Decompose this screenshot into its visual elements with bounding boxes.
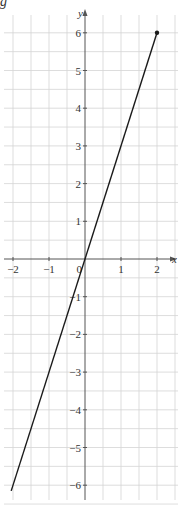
y-tick-label: 3 xyxy=(76,140,82,152)
y-tick-label: −5 xyxy=(69,442,81,454)
y-tick-label: −3 xyxy=(69,366,81,378)
y-axis-label: y xyxy=(77,7,83,19)
x-tick-label: 1 xyxy=(118,263,124,275)
x-tick-label: −1 xyxy=(43,263,55,275)
series-line xyxy=(11,33,157,491)
y-tick-label: −2 xyxy=(69,328,81,340)
y-axis-arrow-icon xyxy=(83,9,88,16)
y-tick-label: 5 xyxy=(76,65,82,77)
y-tick-label: −4 xyxy=(69,404,81,416)
x-axis-label: x xyxy=(171,253,177,265)
y-tick-label: 6 xyxy=(76,27,82,39)
endpoint-dot-icon xyxy=(155,31,159,35)
y-tick-label: 2 xyxy=(76,178,82,190)
y-tick-label: 1 xyxy=(76,215,82,227)
y-tick-label: −6 xyxy=(69,479,81,491)
axes: xy xyxy=(4,7,177,500)
line-chart: xy −2−1120−6−5−4−3−2−1123456 xyxy=(0,0,181,518)
x-tick-label: −2 xyxy=(7,263,19,275)
y-tick-label: 4 xyxy=(76,102,82,114)
x-tick-label: 2 xyxy=(154,263,160,275)
